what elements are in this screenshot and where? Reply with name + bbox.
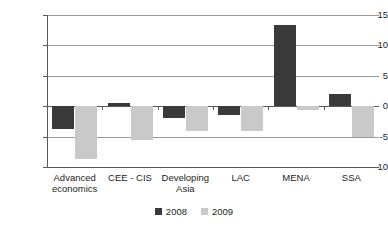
- x-label-line: Asia: [151, 183, 220, 194]
- legend-label: 2009: [212, 206, 233, 217]
- gridline-5: [47, 76, 379, 77]
- bar-2009-advanced-economics: [75, 106, 97, 159]
- y-axis-line: [47, 15, 48, 167]
- bar-2009-ssa: [352, 106, 374, 137]
- legend-item-2009[interactable]: 2009: [201, 206, 233, 217]
- gridline-15: [47, 15, 379, 16]
- bar-2008-mena: [274, 25, 296, 106]
- x-axis-line: [47, 167, 379, 168]
- bar-2009-mena: [297, 106, 319, 110]
- bar-2008-lac: [218, 106, 240, 115]
- category-separator: [324, 106, 325, 110]
- bar-2009-cee-cis: [131, 106, 153, 139]
- bar-chart: 151050-5-10 AdvancedeconomicsCEE - CISDe…: [0, 0, 388, 231]
- x-label-line: economics: [40, 183, 109, 194]
- category-separator: [158, 106, 159, 110]
- bar-2008-developing-asia: [163, 106, 185, 118]
- bar-2008-ssa: [329, 94, 351, 106]
- legend-swatch-icon: [201, 208, 208, 215]
- category-separator: [213, 106, 214, 110]
- chart-legend: 20082009: [0, 206, 388, 217]
- x-label-line: SSA: [317, 172, 386, 183]
- legend-label: 2008: [166, 206, 187, 217]
- legend-item-2008[interactable]: 2008: [155, 206, 187, 217]
- bar-2009-developing-asia: [186, 106, 208, 130]
- bar-2009-lac: [241, 106, 263, 130]
- gridline-10: [47, 45, 379, 46]
- category-separator: [268, 106, 269, 110]
- bar-2008-cee-cis: [108, 103, 130, 107]
- legend-swatch-icon: [155, 208, 162, 215]
- category-separator: [102, 106, 103, 110]
- x-axis-label-ssa: SSA: [317, 172, 386, 183]
- bar-2008-advanced-economics: [52, 106, 74, 129]
